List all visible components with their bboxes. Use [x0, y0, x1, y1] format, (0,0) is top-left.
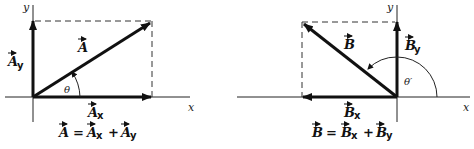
- svg-text:+: +: [108, 125, 119, 140]
- svg-text:=: =: [73, 125, 84, 140]
- svg-text:y: y: [17, 60, 24, 71]
- angle-label-theta-prime: θ′: [404, 76, 413, 87]
- label-vector-a: A: [76, 39, 88, 55]
- angle-arc-theta-prime: [368, 57, 437, 97]
- equation-b: B = B x + B y: [311, 124, 393, 141]
- svg-text:B: B: [311, 125, 323, 140]
- x-axis-label: x: [188, 101, 195, 114]
- svg-text:B: B: [343, 37, 355, 52]
- svg-text:y: y: [130, 130, 137, 141]
- x-axis-label: x: [463, 101, 470, 114]
- svg-text:y: y: [386, 130, 393, 141]
- vector-b: [304, 24, 397, 97]
- y-axis-label: y: [22, 1, 30, 14]
- angle-label-theta: θ: [64, 84, 70, 95]
- svg-text:x: x: [354, 110, 361, 121]
- svg-text:=: =: [326, 125, 337, 140]
- svg-text:A: A: [76, 40, 88, 55]
- svg-text:+: +: [363, 125, 374, 140]
- equation-a: A = A x + A y: [57, 124, 137, 141]
- angle-arc-theta: [72, 72, 80, 97]
- y-axis-label: y: [386, 1, 394, 14]
- label-b-y: B y: [404, 37, 421, 55]
- vector-components-figure: x y θ A A y A x A =: [0, 0, 474, 149]
- label-b-x: B x: [343, 104, 361, 121]
- diagram-b: x y θ′ B B y B x B =: [237, 1, 470, 141]
- svg-text:x: x: [97, 110, 104, 121]
- label-a-y: A y: [6, 53, 24, 71]
- svg-text:x: x: [96, 130, 103, 141]
- svg-text:y: y: [414, 44, 421, 55]
- svg-text:A: A: [57, 125, 69, 140]
- label-vector-b: B: [343, 36, 355, 52]
- diagram-a: x y θ A A y A x A =: [5, 1, 195, 141]
- label-a-x: A x: [86, 104, 104, 121]
- svg-text:x: x: [351, 130, 358, 141]
- vector-a: [33, 23, 150, 97]
